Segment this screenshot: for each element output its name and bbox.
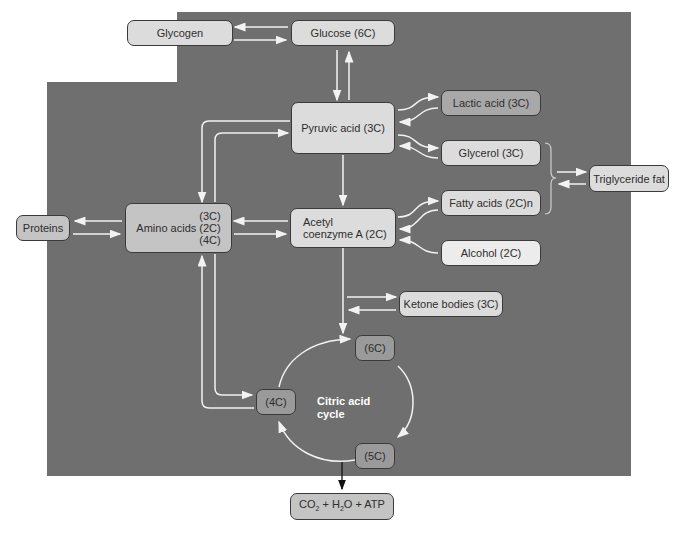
bracket [0, 0, 679, 536]
